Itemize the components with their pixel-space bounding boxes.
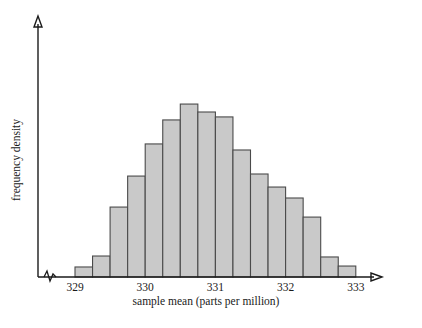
x-axis-tick-labels: 329330331332333 bbox=[66, 281, 364, 293]
x-axis-tick-label: 332 bbox=[277, 281, 295, 293]
histogram-bar bbox=[198, 112, 216, 277]
axis-break-zigzag bbox=[44, 271, 56, 281]
histogram-bar bbox=[215, 117, 233, 277]
histogram-bar bbox=[286, 198, 304, 277]
histogram-bar bbox=[268, 187, 286, 277]
histogram-bar bbox=[110, 207, 128, 277]
x-axis-tick-label: 331 bbox=[207, 281, 225, 293]
histogram-bar bbox=[321, 257, 339, 277]
histogram-bar bbox=[180, 104, 198, 277]
histogram-bar bbox=[251, 174, 269, 277]
histogram-bar bbox=[75, 267, 93, 277]
histogram-bar bbox=[303, 217, 321, 277]
x-axis-tick-label: 333 bbox=[347, 281, 365, 293]
x-axis-tick-label: 330 bbox=[137, 281, 155, 293]
histogram-bar bbox=[128, 176, 146, 277]
x-axis-tick-label: 329 bbox=[66, 281, 84, 293]
histogram-bar bbox=[338, 266, 356, 277]
histogram-bar bbox=[93, 256, 111, 277]
x-axis-title: sample mean (parts per million) bbox=[133, 295, 280, 308]
y-axis-title: frequency density bbox=[10, 119, 23, 201]
histogram-figure: 329330331332333 sample mean (parts per m… bbox=[0, 0, 422, 328]
histogram-bar bbox=[145, 144, 163, 277]
histogram-bar bbox=[163, 120, 181, 277]
histogram-plot: 329330331332333 sample mean (parts per m… bbox=[0, 0, 422, 328]
histogram-bars bbox=[75, 104, 356, 277]
histogram-bar bbox=[233, 150, 251, 277]
